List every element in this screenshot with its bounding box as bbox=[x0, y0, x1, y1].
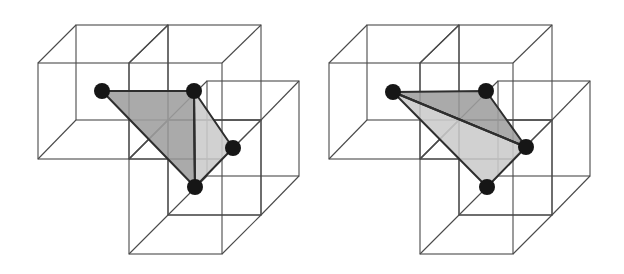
background bbox=[0, 0, 624, 274]
vertex-dot-4 bbox=[479, 179, 495, 195]
vertex-dot-4 bbox=[187, 179, 203, 195]
vertex-dot-3 bbox=[518, 139, 534, 155]
vertex-dot-1 bbox=[94, 83, 110, 99]
vertex-dot-2 bbox=[478, 83, 494, 99]
triangulation-figure bbox=[0, 0, 624, 274]
diagonal-edge bbox=[194, 91, 195, 187]
vertex-dot-3 bbox=[225, 140, 241, 156]
vertex-dot-1 bbox=[385, 84, 401, 100]
vertex-dot-2 bbox=[186, 83, 202, 99]
